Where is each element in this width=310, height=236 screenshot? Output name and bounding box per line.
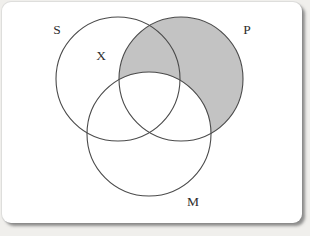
label-x-annotation: X	[96, 48, 106, 63]
page-background: S P X M	[0, 0, 310, 236]
circle-m-mask-fill	[87, 72, 211, 196]
venn-diagram: S P X M	[2, 2, 302, 223]
label-p: P	[243, 22, 251, 37]
label-m: M	[187, 194, 199, 209]
label-s: S	[53, 22, 61, 37]
diagram-card: S P X M	[2, 2, 302, 223]
